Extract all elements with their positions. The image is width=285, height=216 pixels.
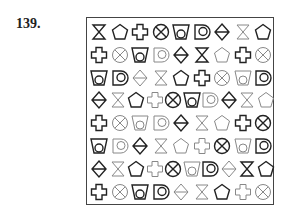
- dshape-icon: [200, 90, 220, 110]
- diamond-icon: [171, 45, 191, 65]
- pentagon-icon: [171, 68, 191, 88]
- cup-icon: [182, 90, 202, 110]
- pentagon-icon: [171, 136, 191, 156]
- cup-icon: [182, 159, 202, 179]
- cross-icon: [89, 45, 109, 65]
- diamond-icon: [212, 22, 232, 42]
- hourglass-icon: [108, 90, 128, 110]
- dshape-icon: [151, 45, 171, 65]
- cup-icon: [233, 136, 253, 156]
- hourglass-icon: [237, 159, 257, 179]
- cross-icon: [233, 113, 253, 133]
- pentagon-icon: [126, 90, 146, 110]
- cup-icon: [130, 45, 150, 65]
- diamond-icon: [171, 182, 191, 202]
- grid-row: [89, 135, 274, 157]
- cross-icon: [89, 182, 109, 202]
- dshape-icon: [151, 182, 171, 202]
- grid-row: [89, 158, 274, 180]
- hourglass-icon: [108, 159, 128, 179]
- circlex-icon: [253, 45, 273, 65]
- cross-icon: [145, 90, 165, 110]
- pentagon-icon: [212, 113, 232, 133]
- dshape-icon: [110, 68, 130, 88]
- cross-icon: [145, 159, 165, 179]
- pentagon-icon: [110, 22, 130, 42]
- cross-icon: [233, 182, 253, 202]
- grid-row: [89, 44, 274, 66]
- cross-icon: [192, 136, 212, 156]
- diamond-icon: [89, 90, 109, 110]
- dshape-icon: [253, 68, 273, 88]
- cup-icon: [130, 182, 150, 202]
- pentagon-icon: [253, 22, 273, 42]
- hourglass-icon: [192, 113, 212, 133]
- cross-icon: [233, 45, 253, 65]
- pentagon-icon: [256, 159, 276, 179]
- cross-icon: [89, 113, 109, 133]
- circlex-icon: [253, 182, 273, 202]
- circlex-icon: [110, 182, 130, 202]
- hourglass-icon: [233, 22, 253, 42]
- diamond-icon: [219, 90, 239, 110]
- dshape-icon: [151, 113, 171, 133]
- cup-icon: [171, 22, 191, 42]
- diamond-icon: [219, 159, 239, 179]
- grid-row: [89, 112, 274, 134]
- pentagon-icon: [212, 45, 232, 65]
- cross-icon: [192, 68, 212, 88]
- cross-icon: [130, 22, 150, 42]
- circlex-icon: [151, 22, 171, 42]
- grid-row: [89, 181, 274, 203]
- diamond-icon: [130, 68, 150, 88]
- circlex-icon: [212, 68, 232, 88]
- symbol-grid: [86, 17, 274, 205]
- grid-row: [89, 67, 274, 89]
- dshape-icon: [200, 159, 220, 179]
- hourglass-icon: [192, 182, 212, 202]
- diamond-icon: [89, 159, 109, 179]
- hourglass-icon: [151, 68, 171, 88]
- pentagon-icon: [212, 182, 232, 202]
- hourglass-icon: [192, 45, 212, 65]
- circlex-icon: [163, 90, 183, 110]
- hourglass-icon: [237, 90, 257, 110]
- cup-icon: [233, 68, 253, 88]
- hourglass-icon: [151, 136, 171, 156]
- circlex-icon: [253, 113, 273, 133]
- pentagon-icon: [256, 90, 276, 110]
- hourglass-icon: [89, 22, 109, 42]
- diamond-icon: [130, 136, 150, 156]
- pentagon-icon: [126, 159, 146, 179]
- cup-icon: [89, 136, 109, 156]
- dshape-icon: [192, 22, 212, 42]
- circlex-icon: [163, 159, 183, 179]
- cup-icon: [130, 113, 150, 133]
- dshape-icon: [253, 136, 273, 156]
- diamond-icon: [171, 113, 191, 133]
- cup-icon: [89, 68, 109, 88]
- grid-row: [89, 89, 274, 111]
- circlex-icon: [110, 113, 130, 133]
- circlex-icon: [212, 136, 232, 156]
- problem-number: 139.: [16, 16, 41, 32]
- grid-row: [89, 21, 274, 43]
- dshape-icon: [110, 136, 130, 156]
- circlex-icon: [110, 45, 130, 65]
